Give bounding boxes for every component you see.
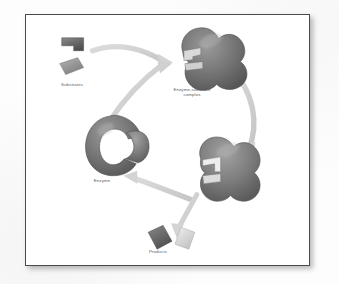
- bound-product-slot-2: [203, 174, 221, 184]
- product-chip-a: [148, 225, 172, 249]
- enzyme-substrate-complex-molecule: [182, 28, 247, 91]
- substrate-molecules: [60, 38, 84, 75]
- label-substrates: Substrates: [37, 82, 107, 87]
- arrow-product-complex-to-enzyme: [123, 171, 191, 200]
- enzyme-product-complex-molecule: [200, 137, 260, 201]
- product-molecules: [148, 225, 195, 249]
- label-enzyme-substrate-complex: Enzyme-substrate complex: [152, 87, 232, 98]
- enzyme-molecule: [86, 115, 150, 176]
- page-background: Substrates Enzyme-substrate complex Enzy…: [0, 0, 339, 284]
- label-products: Products: [123, 249, 193, 254]
- enzyme-cycle-illustration: [26, 15, 309, 265]
- substrate-chip-a: [62, 38, 84, 51]
- figure-canvas: Substrates Enzyme-substrate complex Enzy…: [26, 15, 309, 265]
- substrate-chip-b: [60, 58, 84, 75]
- label-enzyme: Enzyme: [67, 178, 137, 183]
- figure-frame: Substrates Enzyme-substrate complex Enzy…: [25, 14, 310, 266]
